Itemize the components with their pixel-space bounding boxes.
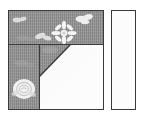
blossom-motif xyxy=(75,12,95,26)
daisy-flower-motif xyxy=(51,21,77,44)
printed-fabric-top-band xyxy=(9,11,103,44)
plain-white-side-strip xyxy=(111,10,136,110)
diagonal-seam-line xyxy=(39,44,71,77)
leaf-motif xyxy=(33,27,53,42)
main-pieced-square xyxy=(8,10,104,110)
printed-fabric-left-column xyxy=(9,44,39,109)
fabric-texture-wisp-icon xyxy=(13,56,35,70)
rose-flower-motif xyxy=(11,76,37,102)
quilt-diagram-canvas xyxy=(0,0,146,119)
fabric-texture-wisp-icon xyxy=(15,33,39,43)
small-blossom-motif xyxy=(12,14,28,26)
